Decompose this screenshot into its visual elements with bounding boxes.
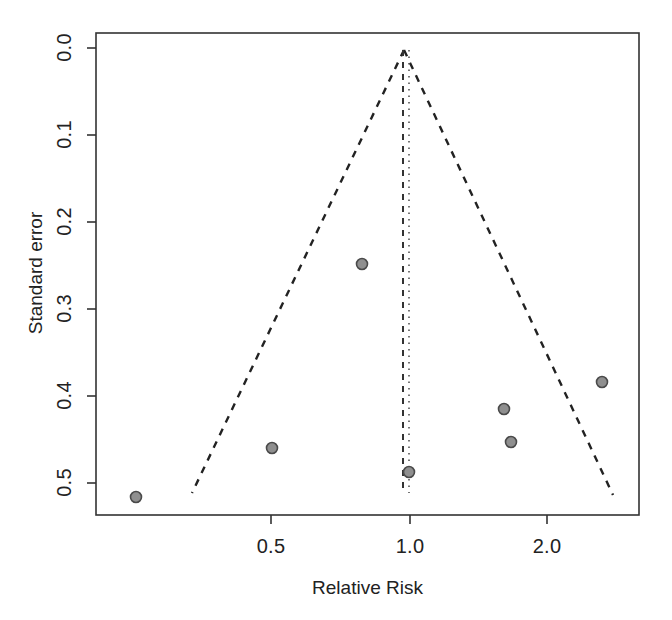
axis-tick-marks [87, 48, 547, 524]
funnel-plot-figure: 0.00.10.20.30.40.5 0.51.02.0 Standard er… [0, 0, 672, 620]
reference-lines [403, 50, 409, 493]
data-point [597, 377, 608, 388]
y-tick-label: 0.3 [53, 289, 76, 329]
data-point [357, 259, 368, 270]
data-point [404, 467, 415, 478]
y-tick-label: 0.5 [53, 463, 76, 503]
x-tick-label: 1.0 [380, 535, 440, 558]
y-tick-label: 0.4 [53, 376, 76, 416]
data-point [267, 443, 278, 454]
data-points [131, 259, 608, 503]
x-axis-title: Relative Risk [218, 577, 518, 599]
plot-frame [96, 33, 639, 515]
y-tick-label: 0.0 [53, 28, 76, 68]
data-point [131, 492, 142, 503]
y-tick-label: 0.1 [53, 115, 76, 155]
funnel-contour-lines [192, 50, 613, 495]
data-point [506, 437, 517, 448]
y-axis-title: Standard error [25, 173, 47, 373]
y-tick-label: 0.2 [53, 202, 76, 242]
x-tick-label: 2.0 [517, 535, 577, 558]
funnel-plot-canvas [0, 0, 672, 620]
x-tick-label: 0.5 [241, 535, 301, 558]
data-point [499, 404, 510, 415]
